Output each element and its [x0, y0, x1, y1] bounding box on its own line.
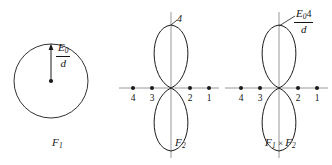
- element-dot: [131, 86, 135, 90]
- f1-amplitude-label: E0 d: [56, 42, 70, 69]
- element-dot: [296, 86, 300, 90]
- caption-f1-times-f2: F1×F2: [265, 136, 296, 150]
- axis-tick-label-4: 4: [235, 93, 247, 103]
- panel-f2: 4 4 3 2 1 F2: [115, 0, 223, 165]
- f2-pattern-plot: [115, 0, 223, 165]
- caption-f2: F2: [175, 136, 186, 150]
- f2-peak-label: 4: [177, 13, 182, 24]
- element-dot: [315, 86, 319, 90]
- f1xf2-amplitude-label: E04 d: [294, 8, 313, 35]
- f1-amplitude-numerator: E0: [56, 42, 70, 56]
- element-dot: [258, 86, 262, 90]
- axis-tick-label-3: 3: [146, 93, 158, 103]
- axis-tick-label-2: 2: [184, 93, 196, 103]
- element-dot: [207, 86, 211, 90]
- element-dot: [150, 86, 154, 90]
- f1xf2-amplitude-numerator: E04: [294, 8, 313, 22]
- f1xf2-amplitude-denominator: d: [294, 23, 313, 35]
- element-dot: [239, 86, 243, 90]
- axis-tick-label-1: 1: [311, 93, 323, 103]
- axis-tick-label-4: 4: [127, 93, 139, 103]
- panel-f1: E0 d F1: [0, 0, 115, 165]
- caption-f1: F1: [52, 136, 63, 150]
- multiply-operator-icon: ×: [276, 138, 285, 148]
- amplitude-label-leader: [279, 16, 295, 26]
- axis-tick-label-3: 3: [254, 93, 266, 103]
- axis-tick-label-2: 2: [292, 93, 304, 103]
- pattern-multiplication-figure: E0 d F1 4 4: [0, 0, 332, 165]
- f1-amplitude-denominator: d: [56, 57, 70, 69]
- element-dot: [188, 86, 192, 90]
- panel-f1-times-f2: E04 d 4 3 2 1 F1×F2: [223, 0, 332, 165]
- axis-tick-label-1: 1: [203, 93, 215, 103]
